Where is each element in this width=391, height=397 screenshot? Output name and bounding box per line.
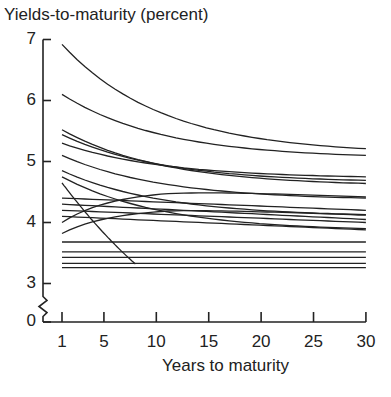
y-tick-label: 3 [16, 273, 36, 293]
y-tick-label: 5 [16, 151, 36, 171]
y-tick-label: 0 [16, 311, 36, 331]
x-axis-label: Years to maturity [0, 356, 391, 376]
yield-curve-line [62, 211, 366, 234]
yield-curves [62, 44, 366, 267]
x-tick-label: 15 [189, 332, 229, 352]
y-tick-label: 7 [16, 29, 36, 49]
x-tick-label: 10 [136, 332, 176, 352]
yield-curve-line [62, 198, 366, 210]
x-tick-label: 20 [241, 332, 281, 352]
x-tick-label: 30 [346, 332, 386, 352]
x-tick-label: 25 [294, 332, 334, 352]
x-tick-label: 5 [84, 332, 124, 352]
x-tick-label: 1 [42, 332, 82, 352]
y-tick-label: 4 [16, 212, 36, 232]
yield-curve-line [62, 44, 366, 148]
y-tick-label: 6 [16, 90, 36, 110]
yield-curve-line [62, 155, 366, 198]
